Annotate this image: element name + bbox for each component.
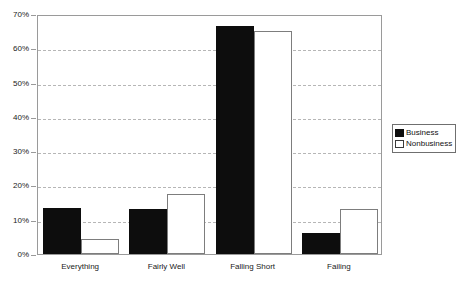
y-tick-mark [31,84,36,85]
chart-legend: BusinessNonbusiness [392,124,456,153]
bar-group [216,16,292,254]
x-axis: EverythingFairly WellFalling ShortFailin… [37,258,382,278]
y-axis: 0%10%20%30%40%50%60%70% [0,15,33,255]
bar-chart: 0%10%20%30%40%50%60%70% EverythingFairly… [0,0,463,281]
legend-item-nonbusiness: Nonbusiness [395,138,452,149]
legend-swatch-icon [395,140,404,148]
y-tick-mark [31,118,36,119]
bar-nonbusiness-fairly-well [167,194,205,254]
x-tick-label: Everything [61,262,99,271]
bar-business-fairly-well [129,209,167,254]
bar-nonbusiness-falling-short [254,31,292,254]
y-tick-label: 50% [13,80,29,88]
y-tick-label: 40% [13,114,29,122]
y-tick-mark [31,255,36,256]
legend-label: Nonbusiness [406,140,452,148]
bar-nonbusiness-everything [81,239,119,254]
bar-business-everything [43,208,81,254]
y-tick-label: 20% [13,182,29,190]
y-tick-mark [31,15,36,16]
x-tick-label: Fairly Well [148,262,185,271]
y-tick-label: 70% [13,11,29,19]
y-tick-mark [31,221,36,222]
y-tick-label: 0% [17,251,29,259]
y-tick-label: 30% [13,148,29,156]
bars-layer [38,16,381,254]
legend-swatch-icon [395,129,404,137]
bar-group [302,16,378,254]
y-tick-label: 60% [13,45,29,53]
legend-label: Business [406,129,438,137]
x-tick-label: Falling Short [230,262,275,271]
y-tick-mark [31,152,36,153]
y-tick-mark [31,49,36,50]
y-tick-mark [31,186,36,187]
legend-item-business: Business [395,127,452,138]
y-tick-label: 10% [13,217,29,225]
x-tick-label: Failing [327,262,351,271]
bar-group [43,16,119,254]
bar-nonbusiness-failing [340,209,378,254]
bar-business-failing [302,233,340,254]
plot-area [37,15,382,255]
bar-group [129,16,205,254]
bar-business-falling-short [216,26,254,254]
